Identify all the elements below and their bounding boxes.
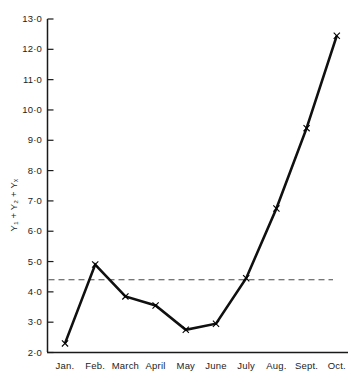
y-axis-tick-label: 10·0 bbox=[2, 104, 42, 115]
chart-axes bbox=[47, 19, 348, 353]
y-axis-tick-label: 7·0 bbox=[2, 195, 42, 206]
series-polyline bbox=[65, 36, 337, 344]
y-axis-ticks bbox=[48, 19, 54, 353]
y-axis-tick-label: 12·0 bbox=[2, 43, 42, 54]
chart-plot-area bbox=[0, 0, 351, 382]
data-point-markers bbox=[62, 33, 340, 347]
data-series-line bbox=[65, 36, 337, 344]
y-axis-tick-label: 11·0 bbox=[2, 74, 42, 85]
x-axis-tick-label: Oct. bbox=[316, 360, 351, 371]
y-axis-tick-label: 6·0 bbox=[2, 225, 42, 236]
y-axis-tick-label: 3·0 bbox=[2, 316, 42, 327]
y-axis-tick-label: 8·0 bbox=[2, 165, 42, 176]
y-axis-tick-label: 13·0 bbox=[2, 13, 42, 24]
y-axis-tick-label: 2·0 bbox=[2, 347, 42, 358]
y-axis-tick-label: 5·0 bbox=[2, 256, 42, 267]
y-axis-tick-label: 9·0 bbox=[2, 134, 42, 145]
y-axis-tick-label: 4·0 bbox=[2, 286, 42, 297]
chart-figure: Y₁ + Y₂ + Yₓ 3·04·05·06·07·08·09·010·011… bbox=[0, 0, 351, 382]
